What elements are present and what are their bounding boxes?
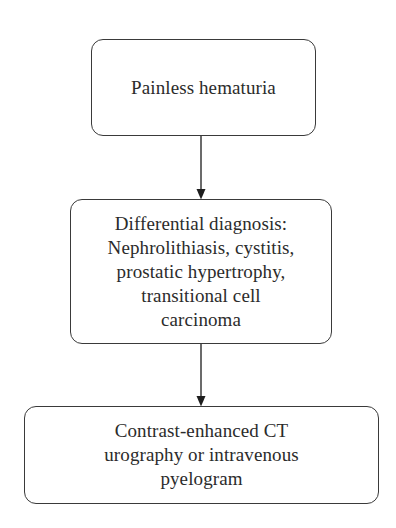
node-differential-diagnosis: Differential diagnosis: Nephrolithiasis,… <box>70 199 332 344</box>
node-text-line: Painless hematuria <box>131 76 276 100</box>
node-text-line: Nephrolithiasis, cystitis, <box>108 236 295 260</box>
arrow-2 <box>197 344 206 407</box>
node-text-line: carcinoma <box>161 308 241 332</box>
node-text-line: pyelogram <box>160 467 242 491</box>
node-painless-hematuria: Painless hematuria <box>91 39 316 136</box>
arrow-2-head-icon <box>197 396 206 407</box>
node-text-line: Contrast-enhanced CT <box>115 419 288 443</box>
node-text-line: prostatic hypertrophy, <box>117 260 286 284</box>
arrow-1 <box>197 136 206 200</box>
arrow-1-head-icon <box>197 189 206 200</box>
node-text-line: urography or intravenous <box>104 443 298 467</box>
node-text-line: Differential diagnosis: <box>115 212 287 236</box>
node-text-line: transitional cell <box>141 284 260 308</box>
node-imaging: Contrast-enhanced CT urography or intrav… <box>24 406 379 504</box>
